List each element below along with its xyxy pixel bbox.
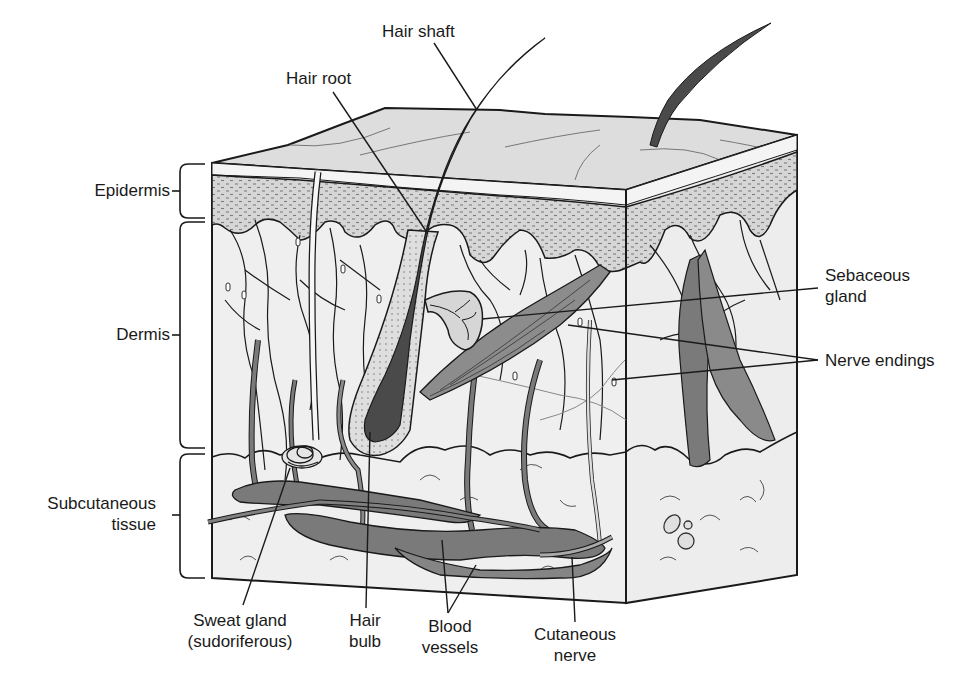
label-hair-bulb-line2: bulb	[340, 631, 390, 652]
label-subcutaneous-line2: tissue	[10, 514, 156, 535]
label-sebaceous-line2: gland	[825, 286, 910, 307]
label-cutaneous-nerve-line2: nerve	[520, 645, 630, 666]
label-sweat-gland: Sweat gland (sudoriferous)	[160, 610, 320, 652]
label-dermis: Dermis	[62, 324, 170, 345]
label-epidermis: Epidermis	[62, 180, 170, 201]
label-sweat-gland-line1: Sweat gland	[160, 610, 320, 631]
label-sweat-gland-line2: (sudoriferous)	[160, 631, 320, 652]
label-hair-root: Hair root	[286, 68, 351, 89]
label-hair-bulb-line1: Hair	[340, 610, 390, 631]
label-subcutaneous-tissue: Subcutaneous tissue	[10, 493, 156, 535]
label-cutaneous-nerve: Cutaneous nerve	[520, 624, 630, 666]
label-sebaceous-gland: Sebaceous gland	[825, 265, 910, 307]
label-hair-bulb: Hair bulb	[340, 610, 390, 652]
label-blood-vessels: Blood vessels	[410, 616, 490, 658]
label-blood-vessels-line2: vessels	[410, 637, 490, 658]
label-hair-shaft: Hair shaft	[382, 21, 455, 42]
label-subcutaneous-line1: Subcutaneous	[10, 493, 156, 514]
label-nerve-endings: Nerve endings	[825, 350, 935, 371]
label-sebaceous-line1: Sebaceous	[825, 265, 910, 286]
sweat-gland	[282, 446, 322, 468]
label-blood-vessels-line1: Blood	[410, 616, 490, 637]
layer-brackets	[172, 164, 205, 578]
label-cutaneous-nerve-line1: Cutaneous	[520, 624, 630, 645]
